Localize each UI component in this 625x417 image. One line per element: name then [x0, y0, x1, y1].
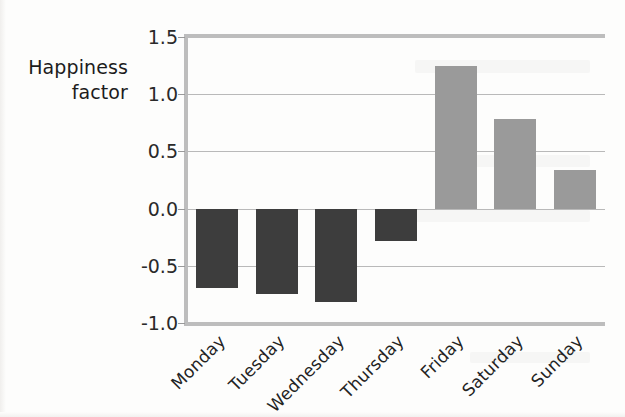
chart-figure: Happiness factor 1.51.00.50.0-0.5-1.0 Mo…	[0, 0, 625, 417]
y-tick-label: -1.0	[122, 312, 178, 334]
y-tick-label: 1.5	[122, 26, 178, 48]
y-tick-mark	[178, 94, 185, 95]
x-tick-label-saturday: Saturday	[458, 331, 527, 400]
y-tick-mark	[178, 151, 185, 152]
bar-tuesday	[256, 209, 298, 295]
x-tick-label-sunday: Sunday	[527, 331, 587, 391]
y-tick-mark	[178, 37, 185, 38]
gridline	[187, 151, 605, 152]
y-axis-ticks: 1.51.00.50.0-0.5-1.0	[122, 0, 178, 417]
y-tick-label: 0.0	[122, 198, 178, 220]
y-axis-label-line2: factor	[8, 80, 128, 105]
gridline	[187, 94, 605, 95]
plot-area	[187, 37, 605, 323]
bar-thursday	[375, 209, 417, 241]
x-tick-label-friday: Friday	[416, 331, 467, 382]
bar-sunday	[554, 170, 596, 209]
y-tick-mark	[178, 323, 185, 324]
scan-edge-left	[0, 0, 6, 417]
y-tick-label: 0.5	[122, 140, 178, 162]
bar-friday	[435, 66, 477, 209]
y-axis-label: Happiness factor	[8, 55, 128, 105]
x-axis-ticks: MondayTuesdayWednesdayThursdayFridaySatu…	[187, 323, 605, 417]
y-tick-mark	[178, 266, 185, 267]
y-tick-label: -0.5	[122, 255, 178, 277]
bar-wednesday	[315, 209, 357, 303]
plot-spine-top	[184, 34, 605, 38]
bar-saturday	[494, 119, 536, 208]
x-tick-label-thursday: Thursday	[337, 331, 408, 402]
gridline	[187, 266, 605, 267]
y-axis-label-line1: Happiness	[8, 55, 128, 80]
y-tick-label: 1.0	[122, 83, 178, 105]
bar-monday	[196, 209, 238, 288]
y-tick-mark	[178, 209, 185, 210]
plot-spine-left	[184, 34, 188, 326]
